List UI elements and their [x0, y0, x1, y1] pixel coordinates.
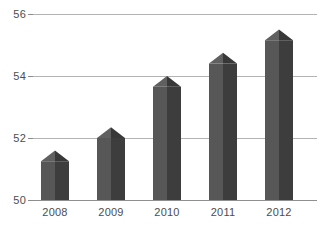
- bar-left-face: [153, 87, 167, 200]
- bar-left-face: [265, 40, 279, 200]
- bar-left-face: [97, 138, 111, 200]
- bar-2008: [41, 150, 69, 200]
- bar-apex-right-facet: [55, 150, 69, 161]
- bar-2010: [153, 76, 181, 200]
- bars-svg: [0, 0, 323, 232]
- bar-right-face: [111, 138, 125, 200]
- x-axis-label-2011: 2011: [196, 207, 250, 218]
- bar-apex-right-facet: [279, 30, 293, 41]
- bar-apex-left-facet: [209, 53, 223, 64]
- x-axis-label-2009: 2009: [84, 207, 138, 218]
- bar-apex-left-facet: [265, 30, 279, 41]
- bar-apex-left-facet: [97, 127, 111, 138]
- bar-2012: [265, 30, 293, 201]
- bar-apex-right-facet: [223, 53, 237, 64]
- bar-left-face: [209, 64, 223, 200]
- bar-right-face: [279, 40, 293, 200]
- bar-apex-left-facet: [153, 76, 167, 87]
- bar-2009: [97, 127, 125, 200]
- bar-chart: 56 54 52 50 2008 2009 2010 2011 2012: [0, 0, 323, 232]
- bar-right-face: [167, 87, 181, 200]
- bar-apex-left-facet: [41, 150, 55, 161]
- bar-left-face: [41, 161, 55, 200]
- x-axis-label-2010: 2010: [140, 207, 194, 218]
- bar-apex-right-facet: [167, 76, 181, 87]
- bar-right-face: [223, 64, 237, 200]
- bars-group: [41, 30, 293, 201]
- bar-apex-right-facet: [111, 127, 125, 138]
- x-axis-label-2008: 2008: [28, 207, 82, 218]
- bar-2011: [209, 53, 237, 200]
- x-axis-label-2012: 2012: [252, 207, 306, 218]
- bar-right-face: [55, 161, 69, 200]
- plot-area: [0, 0, 323, 232]
